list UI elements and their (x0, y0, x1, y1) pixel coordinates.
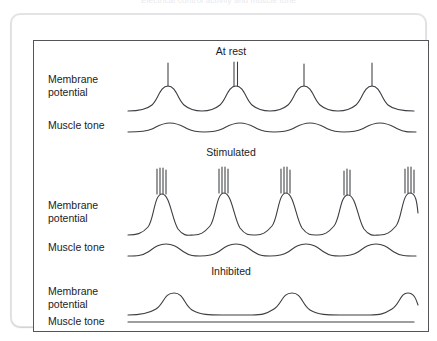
trace-label-inhibited-membrane-potential: Membrane potential (48, 285, 124, 310)
figure-caption: Electrical control activity and muscle t… (0, 0, 437, 5)
panel-inhibited: Inhibited Membrane potential Muscle tone (34, 261, 428, 333)
panel-at-rest: At rest Membrane potential Muscle tone (34, 41, 428, 141)
trace-stimulated-muscle-tone (128, 239, 418, 261)
panel-title-inhibited: Inhibited (34, 265, 428, 277)
panel-title-at-rest: At rest (34, 45, 428, 57)
at-rest-muscle-tone-wave (128, 123, 416, 132)
trace-label-at-rest-muscle-tone: Muscle tone (48, 119, 134, 132)
trace-inhibited-muscle-tone (128, 317, 418, 327)
trace-label-at-rest-membrane-potential: Membrane potential (48, 73, 124, 98)
trace-label-inhibited-muscle-tone: Muscle tone (48, 315, 134, 328)
figure-plot-area: At rest Membrane potential Muscle tone S… (33, 40, 429, 332)
trace-label-stimulated-membrane-potential: Membrane potential (48, 199, 124, 224)
figure-outer-frame: At rest Membrane potential Muscle tone S… (11, 14, 426, 327)
trace-stimulated-membrane-potential (128, 163, 418, 243)
panel-title-stimulated: Stimulated (34, 146, 428, 158)
trace-label-stimulated-muscle-tone: Muscle tone (48, 241, 134, 254)
trace-at-rest-muscle-tone (128, 117, 418, 137)
trace-at-rest-membrane-potential (128, 61, 418, 121)
stimulated-slow-wave (128, 193, 418, 235)
stimulated-muscle-tone-wave (128, 244, 416, 256)
panel-stimulated: Stimulated Membrane potential Muscle ton… (34, 141, 428, 261)
inhibited-slow-wave (128, 293, 418, 315)
at-rest-slow-wave (128, 86, 414, 111)
